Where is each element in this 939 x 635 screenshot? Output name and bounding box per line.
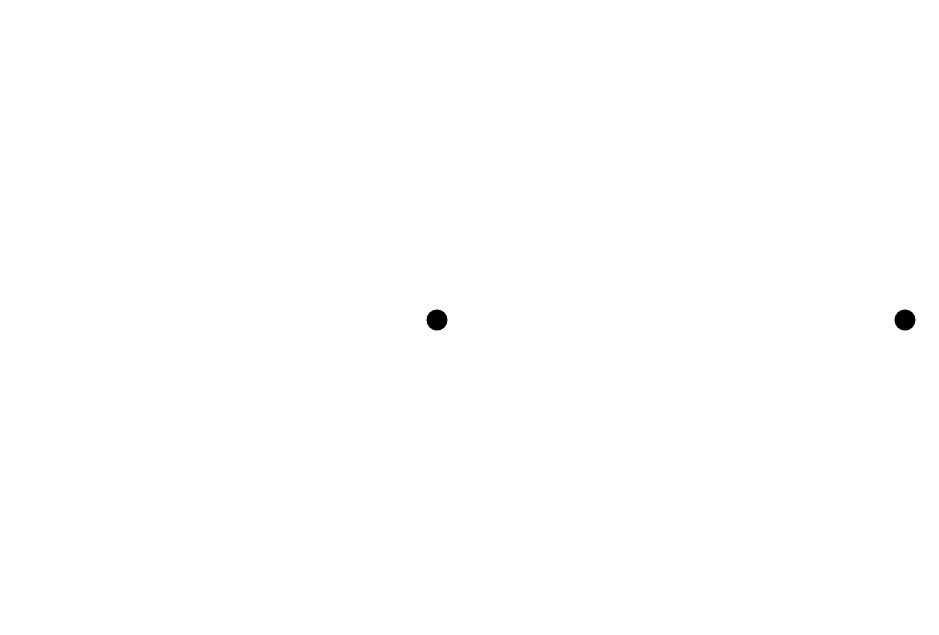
- data-point-marker-right[interactable]: [895, 310, 916, 331]
- plot-canvas: [0, 0, 939, 635]
- data-point-marker-left[interactable]: [427, 310, 448, 331]
